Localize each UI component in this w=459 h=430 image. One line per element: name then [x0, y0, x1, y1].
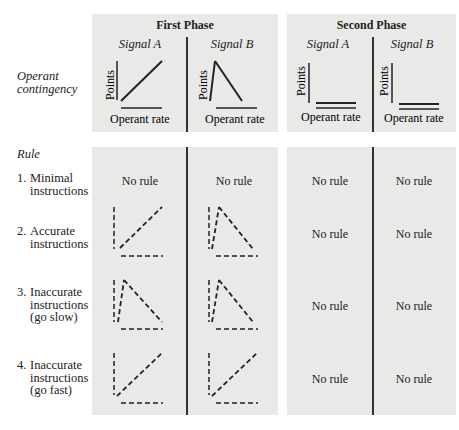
rule-4-graph-first-a	[112, 351, 172, 406]
operant-rate-axis-label: Operant rate	[384, 111, 444, 125]
rule-2-graph-first-b	[207, 205, 267, 260]
first-phase-signal-a: Signal A	[100, 37, 180, 52]
rule-2-graph-first-a	[112, 205, 172, 260]
rule-3-number: 3.	[17, 286, 26, 299]
operant-contingency-label: Operant contingency	[17, 70, 77, 95]
rule-4-text: Inaccurateinstructions(go fast)	[30, 359, 88, 397]
operant-label-line2: contingency	[17, 83, 77, 96]
rule-label: Rule	[17, 148, 40, 161]
first-phase-signal-b: Signal B	[192, 37, 272, 52]
rule-3-label: 3. Inaccurateinstructions(go slow)	[17, 286, 92, 328]
operant-label-line1: Operant	[17, 70, 77, 83]
contingency-graph-first-b: Points Operant rate	[195, 56, 275, 131]
rule-1-second-a: No rule	[290, 174, 370, 189]
points-axis-label: Points	[103, 70, 117, 100]
operant-rate-axis-label: Operant rate	[205, 112, 265, 126]
rule-1-number: 1.	[17, 172, 26, 185]
rule-4-label: 4. Inaccurateinstructions(go fast)	[17, 359, 92, 401]
rule-1-label: 1. Minimalinstructions	[17, 172, 92, 202]
contingency-graph-second-a: Points Operant rate	[293, 56, 373, 131]
rule-3-graph-first-b	[207, 278, 267, 333]
rule-4-number: 4.	[17, 359, 26, 372]
rule-4-second-b: No rule	[374, 372, 454, 387]
rule-2-second-a: No rule	[290, 227, 370, 242]
operant-rate-axis-label: Operant rate	[110, 112, 170, 126]
rule-1-second-b: No rule	[374, 174, 454, 189]
rule-4-graph-first-b	[207, 351, 267, 406]
rule-2-number: 2.	[17, 225, 26, 238]
second-phase-signal-b: Signal B	[372, 37, 452, 52]
first-phase-title: First Phase	[92, 18, 278, 33]
rule-3-second-b: No rule	[374, 299, 454, 314]
points-axis-label: Points	[294, 66, 308, 96]
contingency-graph-first-a: Points Operant rate	[100, 56, 180, 131]
second-phase-signal-a: Signal A	[288, 37, 368, 52]
first-phase-divider	[186, 37, 188, 132]
rule-1-first-a: No rule	[100, 174, 180, 189]
rule-2-second-b: No rule	[374, 227, 454, 242]
operant-rate-axis-label: Operant rate	[301, 110, 361, 124]
second-phase-title: Second Phase	[287, 18, 456, 33]
rule-1-text: Minimalinstructions	[30, 172, 88, 197]
rule-3-second-a: No rule	[290, 299, 370, 314]
rule-2-label: 2. Accurateinstructions	[17, 225, 92, 255]
points-axis-label: Points	[196, 70, 210, 100]
rule-1-first-b: No rule	[194, 174, 274, 189]
rule-4-second-a: No rule	[290, 372, 370, 387]
points-axis-label: Points	[377, 66, 391, 96]
rule-3-graph-first-a	[112, 278, 172, 333]
first-phase-divider-bottom	[186, 147, 188, 415]
contingency-graph-second-b: Points Operant rate	[376, 56, 456, 131]
rule-3-text: Inaccurateinstructions(go slow)	[30, 286, 88, 324]
rule-2-text: Accurateinstructions	[30, 225, 88, 250]
